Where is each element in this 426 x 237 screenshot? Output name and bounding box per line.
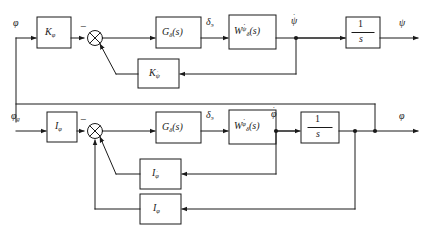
- top-integrator-numerator: 1: [358, 19, 363, 29]
- bottom-inner-feedback-diagonal-wire: [100, 137, 116, 174]
- bottom-integrator-denominator: s: [316, 129, 320, 139]
- top-controller-block-label: Gδ(s): [162, 27, 183, 38]
- bottom-output-label: φ: [399, 111, 405, 121]
- bottom-controller-block-label: Gδ(s): [162, 122, 183, 133]
- top-integrator-denominator: s: [359, 34, 363, 44]
- block-diagram-canvas: φ Kφ − Gδ(s) δэ Wψ˙δ(s) ψ˙ 1 s ψ Kψ˙ φg …: [0, 0, 426, 237]
- bottom-plant-output-signal-label: φ˙: [271, 109, 277, 119]
- top-controller-output-signal-label: δэ: [206, 17, 214, 28]
- top-sum-minus-sign: −: [80, 20, 86, 32]
- top-gain-block-label: Kφ: [45, 27, 55, 38]
- top-plant-output-signal-label: ψ˙: [291, 16, 297, 26]
- top-feedback-diagonal-to-sum-wire: [100, 44, 116, 74]
- bottom-outer-feedback-block-label: Iφ: [153, 203, 160, 214]
- top-output-label: ψ: [399, 18, 405, 28]
- bottom-plant-block-label: Wφ˙δ(s): [234, 121, 260, 132]
- bottom-gain-block-label: Iφ: [55, 121, 62, 132]
- bottom-controller-output-signal-label: δэ: [206, 110, 214, 121]
- bottom-integrator-numerator: 1: [315, 114, 320, 124]
- top-plant-block-label: Wψ˙δ(s): [234, 26, 260, 37]
- bottom-input-label: φg: [11, 111, 20, 122]
- top-input-label: φ: [13, 18, 19, 28]
- bottom-gain-block-rect: [47, 112, 77, 142]
- bottom-sum-minus-sign: −: [80, 113, 86, 125]
- bottom-outer-feedback-block-rect: [140, 194, 181, 224]
- bottom-inner-feedback-block-rect: [140, 159, 181, 189]
- top-feedback-block-label: Kψ˙: [149, 68, 160, 79]
- bottom-inner-feedback-block-label: Iφ˙: [152, 168, 159, 179]
